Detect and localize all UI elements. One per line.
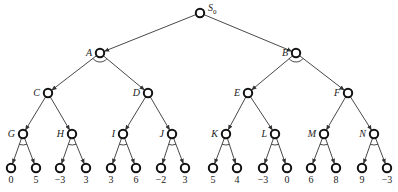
leaf-value: 8 xyxy=(334,174,339,185)
node-M xyxy=(320,130,328,138)
leaf-node xyxy=(358,164,366,172)
edge-I-leaf-4 xyxy=(113,138,122,164)
node-label-A: A xyxy=(85,47,93,58)
node-L xyxy=(271,130,279,138)
edge-F-N xyxy=(350,97,371,130)
tree-edges xyxy=(13,15,386,164)
leaf-value: 5 xyxy=(211,174,216,185)
edge-N-leaf-14 xyxy=(364,138,373,164)
node-label-E: E xyxy=(233,87,240,98)
leaf-value: −2 xyxy=(156,174,167,185)
game-tree-diagram: S0ABCDEFGHIJKLMN 05−3336−2354−30689−3 xyxy=(0,0,398,192)
and-arc-N xyxy=(370,144,378,145)
leaf-node xyxy=(383,164,391,172)
edge-C-G xyxy=(25,97,45,130)
edge-G-leaf-0 xyxy=(13,138,22,164)
node-C xyxy=(44,89,52,97)
node-N xyxy=(370,130,378,138)
edge-L-leaf-11 xyxy=(276,138,285,164)
leaf-node xyxy=(181,164,189,172)
node-A xyxy=(96,49,104,57)
node-label-K: K xyxy=(210,128,219,139)
and-arc-A xyxy=(93,58,107,62)
and-arc-I xyxy=(119,144,127,145)
leaf-node xyxy=(283,164,291,172)
leaf-node xyxy=(332,164,340,172)
edge-B-F xyxy=(299,56,344,91)
leaf-node xyxy=(233,164,241,172)
node-J xyxy=(168,130,176,138)
leaf-node xyxy=(56,164,64,172)
node-label-S0: S0 xyxy=(208,2,217,16)
node-label-J: J xyxy=(160,128,165,139)
node-label-N: N xyxy=(358,128,367,139)
node-I xyxy=(119,130,127,138)
node-E xyxy=(244,89,252,97)
edge-G-leaf-1 xyxy=(24,138,34,164)
edge-E-L xyxy=(250,97,272,131)
leaf-value: −3 xyxy=(382,174,393,185)
edge-A-C xyxy=(52,56,97,91)
edge-B-E xyxy=(252,56,293,90)
leaf-value: 5 xyxy=(34,174,39,185)
edge-M-leaf-12 xyxy=(313,138,323,164)
edge-A-D xyxy=(103,56,144,90)
edge-H-leaf-3 xyxy=(74,138,85,164)
leaf-value: −3 xyxy=(55,174,66,185)
edge-L-leaf-10 xyxy=(265,138,274,164)
node-label-M: M xyxy=(307,128,317,139)
edge-M-leaf-13 xyxy=(325,138,334,164)
node-K xyxy=(222,130,230,138)
edge-I-leaf-5 xyxy=(124,138,134,164)
and-arc-B xyxy=(289,58,303,62)
edge-N-leaf-15 xyxy=(375,138,385,164)
edge-J-leaf-6 xyxy=(162,138,170,164)
leaf-node xyxy=(7,164,15,172)
leaf-node xyxy=(209,164,217,172)
node-label-B: B xyxy=(282,47,288,58)
node-labels: S0ABCDEFGHIJKLMN xyxy=(8,2,368,139)
node-label-G: G xyxy=(8,128,15,139)
node-B xyxy=(292,49,300,57)
and-arc-K xyxy=(222,144,229,145)
leaf-value: 3 xyxy=(183,174,188,185)
node-S0 xyxy=(196,9,204,17)
and-arc-L xyxy=(271,144,278,145)
edge-K-leaf-9 xyxy=(227,138,235,164)
leaf-value: −3 xyxy=(258,174,269,185)
node-H xyxy=(68,130,76,138)
leaf-value: 3 xyxy=(109,174,114,185)
leaf-value: 6 xyxy=(134,174,139,185)
edge-F-M xyxy=(326,97,346,130)
leaf-value: 4 xyxy=(235,174,240,185)
and-arc-M xyxy=(320,144,328,145)
and-arc-H xyxy=(68,144,76,145)
leaf-node xyxy=(307,164,315,172)
leaf-node xyxy=(157,164,165,172)
node-label-H: H xyxy=(56,128,65,139)
edge-J-leaf-7 xyxy=(173,138,183,164)
leaf-values: 05−3336−2354−30689−3 xyxy=(9,174,393,185)
leaf-node xyxy=(259,164,267,172)
edge-D-I xyxy=(125,97,145,130)
edge-D-J xyxy=(150,97,170,130)
leaf-node xyxy=(107,164,115,172)
leaf-node xyxy=(82,164,90,172)
node-label-D: D xyxy=(132,87,141,98)
leaf-value: 0 xyxy=(9,174,14,185)
leaf-node xyxy=(32,164,40,172)
leaf-node xyxy=(132,164,140,172)
leaf-value: 6 xyxy=(309,174,314,185)
edge-C-H xyxy=(50,97,70,130)
node-G xyxy=(19,130,27,138)
leaf-value: 3 xyxy=(84,174,89,185)
edge-K-leaf-8 xyxy=(215,138,225,164)
edge-S0-A xyxy=(104,15,196,52)
node-label-C: C xyxy=(33,87,40,98)
and-arc-J xyxy=(169,144,176,145)
node-label-I: I xyxy=(111,128,116,139)
leaf-value: 0 xyxy=(285,174,290,185)
node-label-L: L xyxy=(260,128,267,139)
edge-S0-B xyxy=(204,15,292,52)
node-D xyxy=(144,89,152,97)
